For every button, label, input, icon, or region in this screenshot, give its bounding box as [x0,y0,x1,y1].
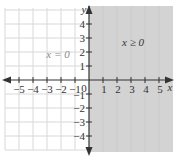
y-tick-label: 2 [80,46,86,58]
x-tick-label: 4 [143,83,149,95]
boundary-annotation: x = 0 [45,48,70,60]
y-axis-label: y [81,3,87,15]
y-tick-label: 1 [80,60,86,72]
x-tick-label: 1 [101,83,107,95]
y-tick-label: −4 [73,130,85,142]
x-tick-label: −2 [55,83,67,95]
y-tick-label: −1 [73,89,85,101]
inequality-graph: −5 −4 −3 −2 −1 0 1 2 3 4 5 x 4 3 2 1 −1 … [0,0,177,161]
y-tick-label: −3 [73,116,85,128]
x-axis-label: x [167,81,173,93]
x-tick-label: 2 [115,83,121,95]
region-annotation: x ≥ 0 [121,36,144,48]
x-tick-label: −5 [13,83,25,95]
x-tick-label: −4 [27,83,39,95]
y-tick-label: 3 [80,32,86,44]
x-tick-label: 3 [129,83,135,95]
x-tick-label: −3 [41,83,53,95]
y-tick-label: 4 [80,18,86,30]
x-axis-left-arrow-icon [2,77,11,84]
y-tick-label: −2 [73,102,85,114]
x-tick-label: 5 [157,83,163,95]
